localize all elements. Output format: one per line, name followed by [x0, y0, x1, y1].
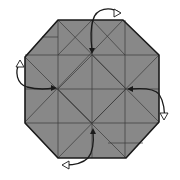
arrowhead-hollow-icon	[62, 161, 69, 169]
origami-diagram: Origami step: octagon with four squash f…	[0, 0, 180, 180]
arrowhead-hollow-icon	[114, 9, 121, 17]
arrowhead-hollow-icon	[16, 60, 24, 67]
diagram-canvas	[0, 0, 180, 180]
arrowhead-hollow-icon	[160, 113, 168, 120]
